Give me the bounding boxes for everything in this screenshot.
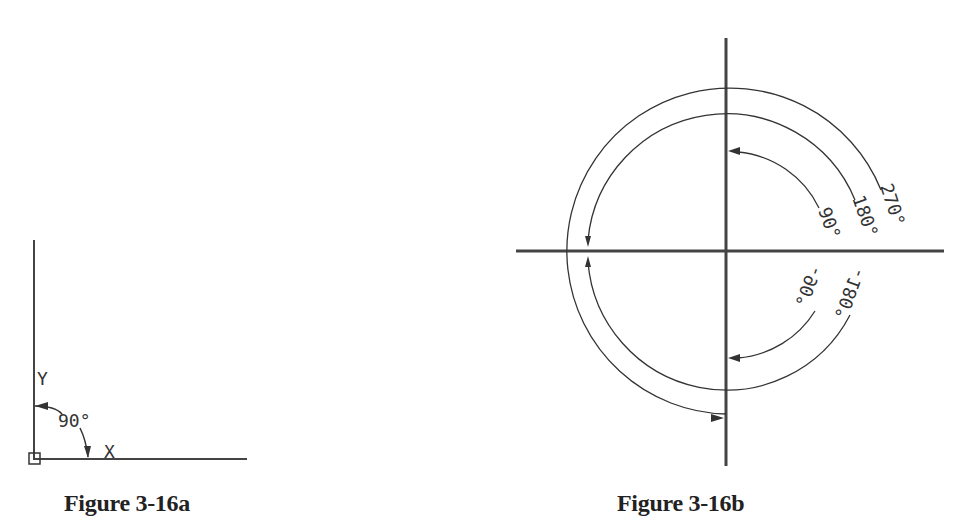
arrow-head-icon bbox=[585, 256, 591, 267]
label-90: 90° bbox=[814, 204, 845, 242]
arrow-head-icon bbox=[35, 402, 48, 410]
label-270: 270° bbox=[876, 181, 909, 229]
label-180: 180° bbox=[848, 192, 883, 240]
arrow-head-icon bbox=[711, 414, 724, 422]
arrow-head-icon bbox=[728, 147, 740, 155]
caption-figure-b: Figure 3-16b bbox=[617, 490, 744, 517]
caption-figure-a: Figure 3-16a bbox=[64, 490, 190, 517]
arrow-head-icon bbox=[84, 446, 91, 458]
angle-label: 90° bbox=[58, 410, 91, 431]
arrow-head-icon bbox=[585, 236, 591, 247]
arc-180 bbox=[588, 114, 855, 240]
figure-3-16a: Y X 90° bbox=[29, 240, 247, 464]
y-axis-label: Y bbox=[37, 368, 48, 389]
label-neg-180: -180° bbox=[830, 264, 868, 322]
x-axis-label: X bbox=[104, 441, 115, 462]
diagram-canvas: Y X 90° 90° 180° 270° -90° -180° bbox=[0, 0, 964, 530]
figure-3-16b: 90° 180° 270° -90° -180° bbox=[516, 38, 944, 466]
label-neg-90: -90° bbox=[791, 262, 826, 310]
arc-neg-90 bbox=[738, 311, 815, 358]
arrow-head-icon bbox=[728, 354, 740, 362]
arc-90 bbox=[738, 152, 819, 208]
